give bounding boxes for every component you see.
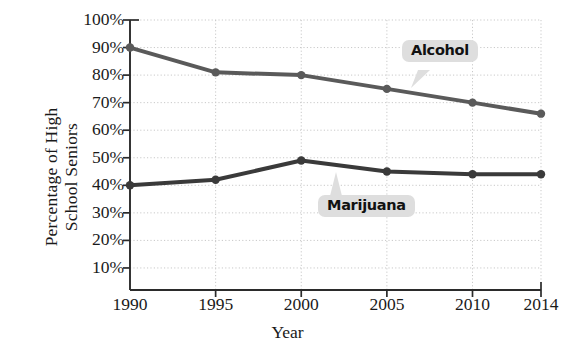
x-tick-label: 2000	[284, 296, 319, 314]
x-axis-tick-labels: 199019952000200520102014	[0, 296, 575, 322]
x-tick-label: 2010	[455, 296, 490, 314]
axis-lines	[130, 20, 541, 290]
data-point-alcohol	[297, 71, 305, 79]
data-point-marijuana	[383, 167, 391, 175]
data-point-alcohol	[468, 98, 476, 106]
data-point-marijuana	[468, 170, 476, 178]
horizontal-gridlines	[130, 20, 541, 268]
x-tick-label: 2014	[524, 296, 559, 314]
axis-tick-marks	[123, 20, 541, 297]
x-tick-label: 2005	[369, 296, 404, 314]
series-line-alcohol	[130, 48, 541, 114]
x-tick-label: 1990	[113, 296, 148, 314]
data-point-alcohol	[537, 109, 545, 117]
vertical-gridlines	[216, 20, 541, 290]
callout-label-alcohol: Alcohol	[402, 40, 478, 62]
chart-container: Percentage of High School Seniors 100%90…	[0, 0, 575, 352]
data-point-marijuana	[537, 170, 545, 178]
data-series	[126, 43, 545, 189]
callout-label-marijuana: Marijuana	[318, 195, 415, 217]
callout-tail-alcohol	[411, 70, 430, 88]
data-point-marijuana	[211, 176, 219, 184]
x-tick-label: 1995	[198, 296, 233, 314]
data-point-alcohol	[383, 85, 391, 93]
data-point-marijuana	[126, 181, 134, 189]
x-axis-title: Year	[0, 324, 575, 342]
data-point-alcohol	[126, 43, 134, 51]
data-point-marijuana	[297, 156, 305, 164]
callout-tail-marijuana	[330, 172, 342, 196]
data-point-alcohol	[211, 68, 219, 76]
